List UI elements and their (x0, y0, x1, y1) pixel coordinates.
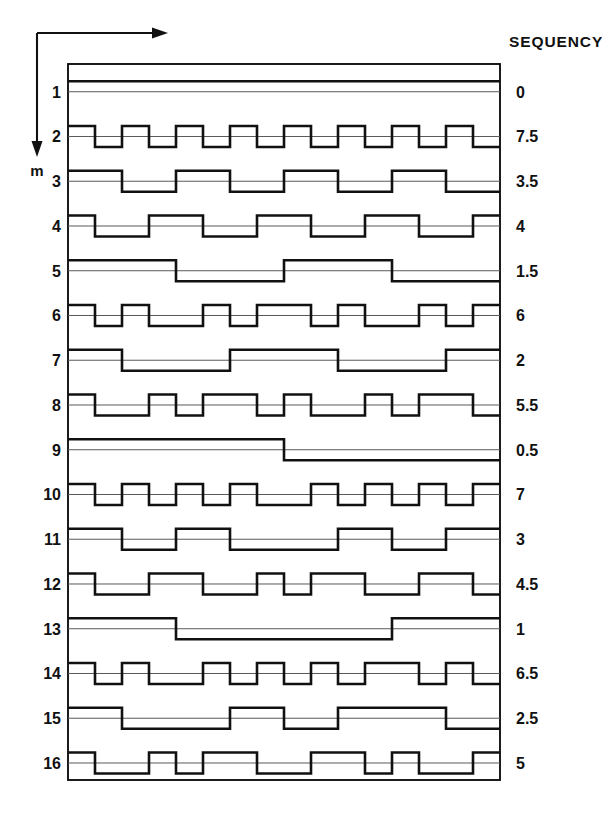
row-index-label-11: 11 (44, 531, 61, 548)
time-axis-arrowhead (152, 28, 168, 39)
row-index-label-15: 15 (43, 710, 61, 727)
axis-indicator: m (30, 28, 168, 180)
row-index-label-6: 6 (52, 307, 61, 324)
sequency-label-layer: 07.53.541.5625.50.5734.516.52.55 (516, 84, 538, 772)
row-index-label-2: 2 (52, 128, 61, 145)
sequency-value-label-5: 1.5 (516, 263, 538, 280)
row-index-label-4: 4 (52, 218, 61, 235)
sequency-value-label-10: 7 (516, 486, 525, 503)
row-label-layer: 12345678910111213141516 (43, 84, 61, 772)
sequency-value-label-15: 2.5 (516, 710, 538, 727)
row-index-label-5: 5 (52, 263, 61, 280)
sequency-value-label-9: 0.5 (516, 442, 538, 459)
row-index-label-12: 12 (43, 576, 61, 593)
walsh-figure-svg: m SEQUENCY 12345678910111213141516 07.53… (0, 0, 602, 832)
row-index-label-8: 8 (52, 397, 61, 414)
sequency-value-label-13: 1 (516, 621, 525, 638)
sequency-value-label-16: 5 (516, 755, 525, 772)
m-axis-arrowhead (32, 141, 43, 157)
sequency-value-label-2: 7.5 (516, 128, 538, 145)
sequency-value-label-6: 6 (516, 307, 525, 324)
sequency-value-label-4: 4 (516, 218, 525, 235)
sequency-value-label-14: 6.5 (516, 665, 538, 682)
row-index-label-3: 3 (52, 173, 61, 190)
sequency-value-label-7: 2 (516, 352, 525, 369)
row-index-label-16: 16 (43, 755, 61, 772)
sequency-value-label-3: 3.5 (516, 173, 538, 190)
row-index-label-9: 9 (52, 442, 61, 459)
row-index-label-7: 7 (52, 352, 61, 369)
sequency-value-label-12: 4.5 (516, 576, 538, 593)
row-index-label-1: 1 (52, 84, 61, 101)
waveform-layer (68, 81, 500, 773)
m-axis-label: m (30, 162, 43, 179)
row-index-label-10: 10 (43, 486, 61, 503)
sequency-value-label-11: 3 (516, 531, 525, 548)
walsh-function-figure: m SEQUENCY 12345678910111213141516 07.53… (0, 0, 602, 832)
row-index-label-13: 13 (43, 621, 61, 638)
page-title: SEQUENCY (509, 33, 602, 50)
sequency-value-label-1: 0 (516, 84, 525, 101)
row-index-label-14: 14 (43, 665, 61, 682)
sequency-value-label-8: 5.5 (516, 397, 538, 414)
